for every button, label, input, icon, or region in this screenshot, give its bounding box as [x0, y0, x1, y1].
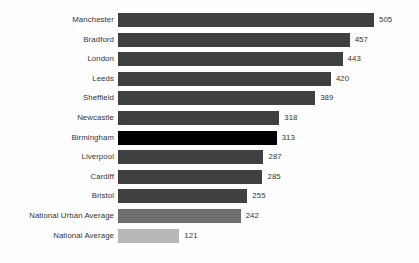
bar-value-label: 121: [184, 231, 197, 241]
bar: [118, 72, 331, 86]
bar-row: National Urban Average242: [0, 206, 419, 226]
bar-row: National Average121: [0, 226, 419, 246]
bar: [118, 150, 263, 164]
category-label: Bristol: [0, 191, 118, 201]
bar-track: 313: [118, 131, 419, 145]
bar-track: 121: [118, 229, 419, 243]
bar-chart: Manchester505Bradford457London443Leeds42…: [0, 0, 419, 263]
category-label: London: [0, 54, 118, 64]
bar-value-label: 389: [320, 93, 333, 103]
bar-value-label: 285: [267, 172, 280, 182]
bar-value-label: 443: [348, 54, 361, 64]
category-label: Newcastle: [0, 113, 118, 123]
bar-row: Bradford457: [0, 30, 419, 50]
bar-track: 285: [118, 170, 419, 184]
bar-row: Birmingham313: [0, 128, 419, 148]
bar-row: Sheffield389: [0, 88, 419, 108]
bar: [118, 13, 374, 27]
bar-value-label: 420: [336, 74, 349, 84]
category-label: Birmingham: [0, 133, 118, 143]
bar: [118, 131, 277, 145]
category-label: Cardiff: [0, 172, 118, 182]
bar-value-label: 287: [268, 152, 281, 162]
bar-row: Newcastle318: [0, 108, 419, 128]
category-label: Bradford: [0, 35, 118, 45]
plot-area: Manchester505Bradford457London443Leeds42…: [0, 0, 419, 263]
bar-row: Leeds420: [0, 69, 419, 89]
bar: [118, 209, 241, 223]
bar-row: Manchester505: [0, 10, 419, 30]
category-label: Sheffield: [0, 93, 118, 103]
bar-value-label: 255: [252, 191, 265, 201]
bar-value-label: 242: [246, 211, 259, 221]
bar-row: Cardiff285: [0, 167, 419, 187]
bar-track: 443: [118, 52, 419, 66]
bar-track: 255: [118, 189, 419, 203]
bar-row: London443: [0, 49, 419, 69]
bar: [118, 229, 179, 243]
bar-value-label: 318: [284, 113, 297, 123]
bar: [118, 111, 279, 125]
category-label: National Average: [0, 231, 118, 241]
bar: [118, 91, 315, 105]
bar-value-label: 457: [355, 35, 368, 45]
bar-row: Bristol255: [0, 186, 419, 206]
bar-track: 505: [118, 13, 419, 27]
bar: [118, 33, 350, 47]
bar-track: 318: [118, 111, 419, 125]
bar: [118, 170, 262, 184]
bar-track: 242: [118, 209, 419, 223]
bar: [118, 52, 343, 66]
bar-value-label: 313: [282, 133, 295, 143]
bar-track: 389: [118, 91, 419, 105]
bar-value-label: 505: [379, 15, 392, 25]
category-label: Manchester: [0, 15, 118, 25]
bar-row: Liverpool287: [0, 147, 419, 167]
bar-track: 287: [118, 150, 419, 164]
bar-track: 420: [118, 72, 419, 86]
bar-track: 457: [118, 33, 419, 47]
category-label: Leeds: [0, 74, 118, 84]
bar: [118, 189, 247, 203]
category-label: National Urban Average: [0, 211, 118, 221]
category-label: Liverpool: [0, 152, 118, 162]
